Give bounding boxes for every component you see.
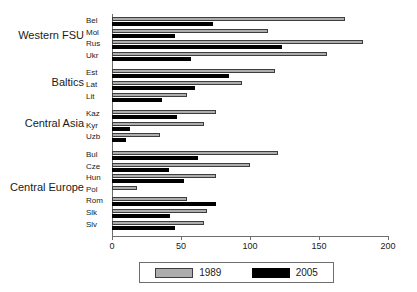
bar-1989-pol (112, 186, 137, 190)
bar-1989-ukr (112, 52, 327, 56)
bar-1989-mol (112, 29, 268, 33)
bar-2005-rom (112, 202, 216, 206)
legend-entry-2005: 2005 (252, 267, 318, 278)
category-label-pol: Pol (86, 185, 110, 194)
x-tick-label-100: 100 (242, 241, 257, 251)
bar-1989-bel (112, 17, 345, 21)
category-label-slv: Slv (86, 220, 110, 229)
category-label-rom: Rom (86, 196, 110, 205)
category-label-lit: Lit (86, 92, 110, 101)
category-label-uzb: Uzb (86, 132, 110, 141)
grouped-bar-chart: 050100150200 BelMolRusUkrEstLatLitKazKyr… (0, 0, 417, 292)
bar-1989-rom (112, 197, 187, 201)
bar-row (0, 221, 417, 232)
legend-entry-1989: 1989 (155, 267, 221, 278)
bar-2005-lit (112, 98, 162, 102)
bar-1989-cze (112, 163, 250, 167)
bar-row (0, 17, 417, 28)
bar-2005-hun (112, 179, 184, 183)
group-label-western-fsu: Western FSU (18, 29, 84, 41)
bar-row (0, 163, 417, 174)
group-label-central-europe: Central Europe (10, 181, 84, 193)
x-tick-150 (319, 236, 320, 240)
category-label-slk: Slk (86, 208, 110, 217)
category-label-bul: Bul (86, 150, 110, 159)
bar-1989-uzb (112, 133, 160, 137)
bar-2005-slk (112, 214, 170, 218)
legend-label-2005: 2005 (296, 267, 318, 278)
category-label-kyr: Kyr (86, 121, 110, 130)
x-tick-label-0: 0 (109, 241, 114, 251)
legend-label-1989: 1989 (199, 267, 221, 278)
bar-2005-mol (112, 34, 175, 38)
category-label-est: Est (86, 68, 110, 77)
bar-1989-kaz (112, 110, 216, 114)
bar-1989-lat (112, 81, 242, 85)
bar-1989-bul (112, 151, 278, 155)
bar-row (0, 151, 417, 162)
bar-2005-rus (112, 45, 282, 49)
bar-row (0, 133, 417, 144)
category-label-hun: Hun (86, 173, 110, 182)
bar-2005-est (112, 74, 229, 78)
bar-1989-slk (112, 209, 207, 213)
bar-2005-ukr (112, 57, 191, 61)
bar-1989-hun (112, 174, 216, 178)
black-swatch-icon (252, 268, 290, 278)
category-label-lat: Lat (86, 80, 110, 89)
chart-legend: 1989 2005 (139, 262, 334, 283)
x-tick-label-200: 200 (380, 241, 395, 251)
bar-1989-lit (112, 93, 187, 97)
category-label-ukr: Ukr (86, 51, 110, 60)
x-tick-label-50: 50 (176, 241, 186, 251)
category-label-rus: Rus (86, 39, 110, 48)
bar-1989-rus (112, 40, 363, 44)
group-label-baltics: Baltics (52, 76, 84, 88)
bar-row (0, 93, 417, 104)
gray-swatch-icon (155, 268, 193, 278)
x-tick-100 (250, 236, 251, 240)
x-tick-50 (181, 236, 182, 240)
group-label-central-asia: Central Asia (25, 117, 84, 129)
bar-2005-uzb (112, 138, 126, 142)
bar-2005-kyr (112, 127, 130, 131)
bar-1989-slv (112, 221, 204, 225)
bar-2005-kaz (112, 115, 177, 119)
bar-1989-kyr (112, 122, 204, 126)
x-tick-label-150: 150 (311, 241, 326, 251)
bar-2005-bel (112, 22, 213, 26)
category-label-bel: Bel (86, 16, 110, 25)
bar-2005-bul (112, 156, 198, 160)
bar-2005-slv (112, 226, 175, 230)
bar-row (0, 40, 417, 51)
category-label-kaz: Kaz (86, 109, 110, 118)
bar-1989-est (112, 69, 275, 73)
bar-2005-lat (112, 86, 195, 90)
category-label-cze: Cze (86, 162, 110, 171)
bar-row (0, 52, 417, 63)
bar-2005-cze (112, 168, 169, 172)
x-tick-200 (388, 236, 389, 240)
category-label-mol: Mol (86, 28, 110, 37)
x-tick-0 (112, 236, 113, 240)
bar-row (0, 197, 417, 208)
bar-row (0, 209, 417, 220)
